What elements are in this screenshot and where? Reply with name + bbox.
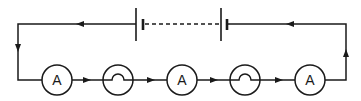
- ammeter-label: A: [177, 72, 187, 88]
- ammeter-2: A: [167, 65, 197, 95]
- arrow-top-right-left-icon: [286, 21, 294, 27]
- arrow-left-icon: [76, 21, 84, 27]
- ammeter-label: A: [305, 72, 315, 88]
- lamp-1: [103, 65, 133, 95]
- arrow-up-icon: [343, 49, 349, 57]
- circuit-diagram: A A A: [0, 0, 361, 101]
- battery-cell-left: [136, 8, 143, 41]
- arrow-right-icon: [275, 77, 283, 83]
- ammeter-label: A: [52, 72, 62, 88]
- battery-cell-right: [221, 8, 227, 41]
- arrow-right-icon: [83, 77, 91, 83]
- arrow-right-icon: [147, 77, 155, 83]
- arrow-down-icon: [15, 44, 21, 52]
- ammeter-3: A: [295, 65, 325, 95]
- arrow-right-icon: [210, 77, 218, 83]
- lamp-2: [230, 65, 260, 95]
- ammeter-1: A: [42, 65, 72, 95]
